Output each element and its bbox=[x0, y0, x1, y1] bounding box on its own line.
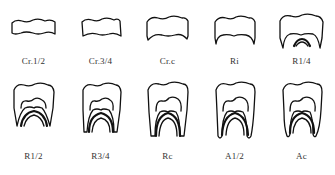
tooth-root-half-icon bbox=[0, 80, 67, 142]
tooth-root-initiation-icon bbox=[201, 8, 268, 50]
tooth-crown-half-icon bbox=[0, 12, 67, 42]
tooth-stage-crc bbox=[134, 8, 201, 48]
tooth-root-three-quarter-icon bbox=[67, 80, 134, 144]
stage-label: Cr.c bbox=[134, 56, 201, 66]
tooth-stage-r12 bbox=[0, 80, 67, 142]
stage-label: Ac bbox=[268, 151, 335, 161]
stage-label: R1/4 bbox=[268, 56, 335, 66]
tooth-stage-cr12 bbox=[0, 12, 67, 42]
stage-label: Rc bbox=[134, 151, 201, 161]
tooth-stage-ri bbox=[201, 8, 268, 50]
stage-label: R3/4 bbox=[67, 151, 134, 161]
tooth-crown-three-quarter-icon bbox=[67, 10, 134, 44]
tooth-apex-complete-icon bbox=[268, 78, 335, 144]
tooth-stage-a12 bbox=[201, 78, 268, 144]
stage-label: Cr.1/2 bbox=[0, 56, 67, 66]
tooth-apex-half-icon bbox=[201, 78, 268, 144]
tooth-root-quarter-icon bbox=[268, 6, 335, 52]
tooth-crown-complete-icon bbox=[134, 8, 201, 48]
tooth-stage-ac bbox=[268, 78, 335, 144]
stage-label: A1/2 bbox=[201, 151, 268, 161]
tooth-stage-r14 bbox=[268, 6, 335, 52]
tooth-stage-cr34 bbox=[67, 10, 134, 44]
stage-label: Cr.3/4 bbox=[67, 56, 134, 66]
stage-label: Ri bbox=[201, 56, 268, 66]
tooth-stage-rc bbox=[134, 78, 201, 144]
tooth-stage-r34 bbox=[67, 80, 134, 144]
tooth-root-complete-icon bbox=[134, 78, 201, 144]
stage-label: R1/2 bbox=[0, 151, 67, 161]
